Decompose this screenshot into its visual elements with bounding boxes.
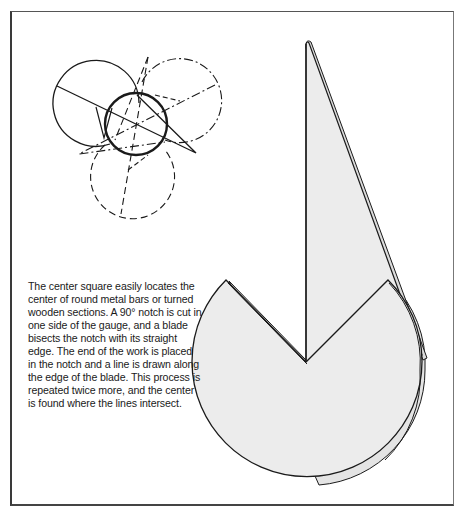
gauge-outline-solid [53,60,139,146]
illustration [0,0,464,511]
blade-dashed [121,57,148,214]
caption-text: The center square easily locates the cen… [28,280,203,410]
center-square-tool [192,41,427,485]
gauge-outline-dashdot [142,59,222,143]
center-finding-diagram [53,57,222,219]
notch-dashdot [155,95,180,101]
gauge-outline-dashed [91,145,175,219]
